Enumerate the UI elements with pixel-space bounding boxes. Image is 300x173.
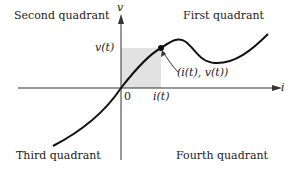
operating-point bbox=[158, 45, 164, 51]
fourth-quadrant-label: Fourth quadrant bbox=[176, 150, 268, 161]
point-label: (i(t), v(t)) bbox=[177, 67, 228, 78]
quadrant-diagram bbox=[0, 0, 300, 173]
origin-label: 0 bbox=[124, 91, 131, 102]
i-t-marker: i(t) bbox=[153, 91, 170, 102]
v-axis-arrow-icon bbox=[118, 14, 124, 24]
v-t-marker: v(t) bbox=[95, 42, 114, 53]
i-axis-label: i bbox=[281, 82, 285, 93]
v-axis-label: v bbox=[117, 2, 123, 13]
third-quadrant-label: Third quadrant bbox=[16, 150, 101, 161]
pointer-line bbox=[163, 52, 178, 72]
second-quadrant-label: Second quadrant bbox=[14, 10, 110, 21]
first-quadrant-label: First quadrant bbox=[183, 10, 264, 21]
